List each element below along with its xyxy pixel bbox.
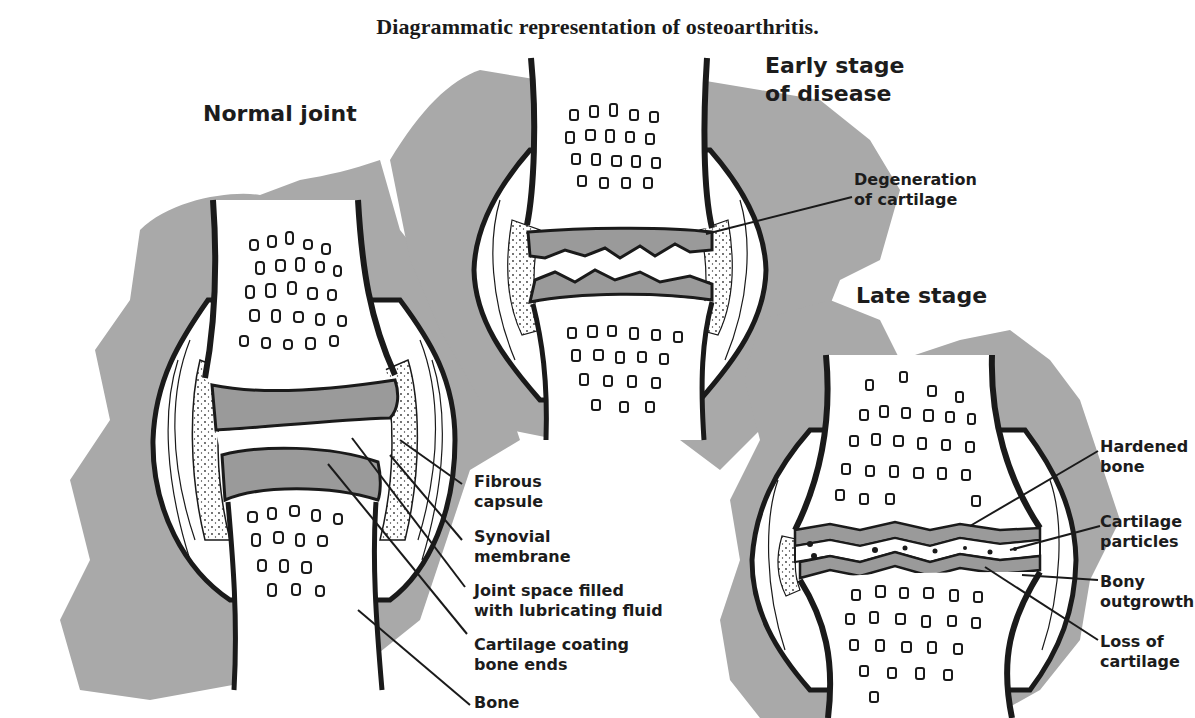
label-joint-space: Joint space filled with lubricating flui… (474, 581, 663, 621)
label-cartilage-particles: Cartilage particles (1100, 512, 1182, 552)
label-loss-of-cartilage: Loss of cartilage (1100, 632, 1180, 672)
label-fibrous-capsule: Fibrous capsule (474, 472, 543, 512)
label-bone: Bone (474, 693, 519, 713)
label-synovial-membrane: Synovial membrane (474, 527, 571, 567)
normal-joint-heading: Normal joint (203, 100, 357, 127)
early-stage-heading-line2: of disease (765, 80, 892, 107)
early-stage-heading-line1: Early stage (765, 52, 904, 79)
late-stage-heading: Late stage (856, 282, 987, 309)
label-bony-outgrowth: Bony outgrowth (1100, 572, 1194, 612)
label-degeneration-of-cartilage: Degeneration of cartilage (854, 170, 977, 210)
label-hardened-bone: Hardened bone (1100, 437, 1188, 477)
label-cartilage-coating: Cartilage coating bone ends (474, 635, 629, 675)
